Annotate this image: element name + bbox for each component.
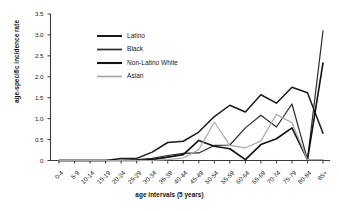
y-tick-label: 0 — [24, 157, 44, 164]
y-tick-label: 3.5 — [24, 10, 44, 17]
axis-lines — [51, 14, 331, 161]
y-tick-label: 2.5 — [24, 52, 44, 59]
series-line-latino — [59, 87, 323, 160]
legend-label-non-latino-white: Non-Latino White — [127, 59, 178, 66]
x-axis-title: age intervals (5 years) — [0, 191, 339, 198]
y-tick-label: 3.0 — [24, 31, 44, 38]
legend-label-asian: Asian — [127, 72, 144, 79]
y-axis-title: age-specific incidence rate — [13, 2, 20, 122]
legend-label-black: Black — [127, 45, 143, 52]
legend-swatch-group — [97, 36, 122, 77]
y-tick-label: 1.5 — [24, 94, 44, 101]
series-line-non-latino-white — [59, 63, 323, 161]
chart-container: 00.51.01.52.02.53.03.5 0-45-910-1415-192… — [0, 0, 339, 211]
y-tick-label: 2.0 — [24, 73, 44, 80]
y-tick-label: 0.5 — [24, 136, 44, 143]
legend-label-latino: Latino — [127, 32, 145, 39]
y-tick-label: 1.0 — [24, 115, 44, 122]
